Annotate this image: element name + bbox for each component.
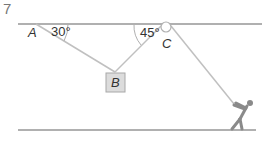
pulley-diagram: A 30° 45° C B bbox=[0, 0, 279, 148]
label-angle-45: 45° bbox=[140, 25, 160, 40]
label-b: B bbox=[111, 75, 120, 90]
label-a: A bbox=[27, 25, 37, 40]
label-c: C bbox=[162, 36, 172, 51]
label-angle-30: 30° bbox=[51, 24, 71, 39]
string-c-man bbox=[171, 26, 234, 104]
string-a-b bbox=[36, 24, 115, 72]
person-icon bbox=[232, 100, 253, 129]
pulley-c bbox=[161, 22, 171, 32]
